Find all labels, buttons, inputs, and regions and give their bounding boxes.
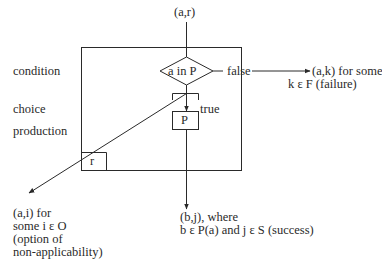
rule-text: r [90,155,94,168]
input-label: (a,r) [174,6,195,19]
production-text: P [181,114,188,127]
row-label-production: production [13,125,67,138]
non-applicability-line4: non-applicability) [13,246,103,259]
row-label-condition: condition [13,65,60,78]
row-label-choice: choice [13,103,46,116]
true-label: true [200,103,219,116]
success-output-line2: b ε P(a) and j ε S (success) [180,224,314,237]
false-label: false [227,65,251,78]
condition-text: a in P [168,65,196,78]
failure-output-line2: k ε F (failure) [288,78,357,91]
non-applicability-edge [29,94,187,194]
